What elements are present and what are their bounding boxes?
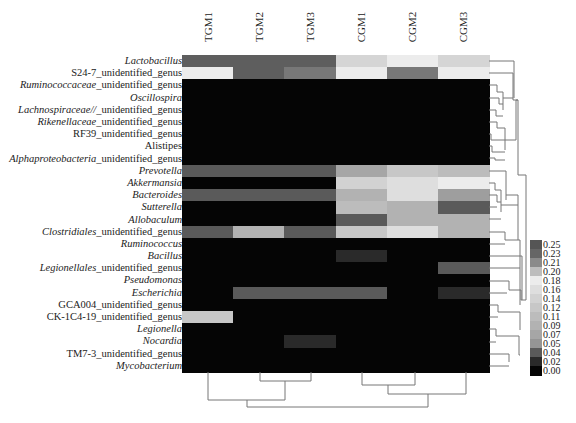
- dendrograms: [0, 0, 576, 423]
- row-dendrogram: [489, 61, 526, 366]
- column-dendrogram: [208, 372, 466, 407]
- legend-swatch: [530, 366, 542, 376]
- legend-tick-label: 0.00: [543, 366, 561, 375]
